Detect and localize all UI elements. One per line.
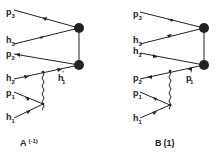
arrow-p3 [168, 19, 173, 22]
label-p1-prime: p'1 [186, 70, 194, 85]
label-h3: h3 [6, 35, 16, 47]
arrow-p1 [25, 97, 30, 101]
label-p1: p1 [133, 88, 143, 100]
caption-b: B(1) [155, 138, 175, 148]
label-h1: h1 [133, 113, 143, 125]
arrow-h1 [152, 111, 157, 115]
label-h1-prime: h'1 [58, 70, 66, 85]
arrow-h1 [26, 110, 31, 114]
diagram-a: p3 h3 p2 h2 h'1 p1 h1 A(-1) [6, 7, 84, 148]
arrow-h3 [39, 36, 44, 39]
arrow-p2 [147, 75, 152, 79]
photon-line [169, 71, 171, 109]
line-h2 [14, 65, 79, 79]
line-h3 [14, 28, 79, 44]
line-h2 [140, 53, 204, 65]
label-p3: p3 [133, 9, 143, 21]
vertex-top [74, 23, 84, 33]
label-h2: h2 [6, 73, 16, 85]
arrow-p2 [15, 53, 20, 57]
caption-a: A(-1) [20, 138, 38, 148]
label-h2: h2 [133, 46, 143, 58]
small-vertex [42, 71, 45, 74]
line-h3 [140, 28, 204, 44]
label-p3: p3 [6, 7, 16, 19]
diagram-b: p3 h3 h2 p2 p'1 p1 h1 B(1) [133, 9, 209, 148]
label-h1: h1 [6, 112, 16, 124]
vertex-bottom [74, 60, 84, 70]
label-p2: p2 [133, 73, 143, 85]
small-vertex [169, 70, 172, 73]
arrow-p1 [152, 97, 157, 101]
label-p2: p2 [6, 49, 16, 61]
feynman-diagrams: p3 h3 p2 h2 h'1 p1 h1 A(-1) [0, 0, 216, 153]
label-p1: p1 [6, 88, 16, 100]
line-p2 [14, 54, 79, 65]
vertex-bottom [199, 60, 209, 70]
vertex-top [199, 23, 209, 33]
